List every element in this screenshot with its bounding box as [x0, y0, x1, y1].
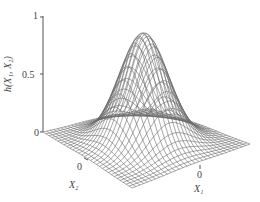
- mesh-line: [91, 37, 204, 161]
- mesh-line: [120, 139, 237, 180]
- surface-mesh: [0, 0, 260, 202]
- z-axis: [40, 16, 200, 169]
- z-tick-0: 0: [34, 128, 39, 138]
- x1-axis-label: X₁: [194, 184, 204, 194]
- surface-plot: 1 0.5 0 h(X₁, X₂) 0 X₂ 0 X₁: [0, 0, 260, 202]
- z-axis-label: h(X₁, X₂): [2, 56, 13, 92]
- z-tick-0-5: 0.5: [22, 70, 35, 80]
- mesh-line: [85, 34, 197, 157]
- x1-tick-0: 0: [197, 170, 202, 180]
- mesh-line: [114, 133, 230, 177]
- x2-tick-0: 0: [77, 162, 82, 172]
- z-tick-1: 1: [33, 11, 38, 21]
- mesh-line: [67, 89, 177, 146]
- x2-axis-label: X₂: [69, 180, 79, 190]
